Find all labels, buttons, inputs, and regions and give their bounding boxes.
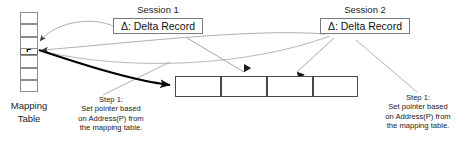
- pointer-arrow-mapping-table-to-page-chain: [39, 50, 170, 85]
- session-1-delta-record-box[interactable]: Δ: Delta Record: [113, 18, 203, 34]
- mapping-table-cell[interactable]: [20, 80, 38, 92]
- page-chain-cell[interactable]: [267, 76, 313, 97]
- session-1-title: Session 1: [108, 4, 208, 15]
- line-session1-to-chain: [187, 38, 244, 72]
- mapping-table-cell[interactable]: [20, 24, 38, 36]
- page-chain-cell[interactable]: [175, 76, 221, 97]
- mapping-table-cell[interactable]: [20, 55, 38, 67]
- page-chain-cell[interactable]: [313, 76, 358, 97]
- step-note-right-line1: Step 1:: [362, 93, 466, 102]
- mapping-table-label-line1: Mapping: [11, 100, 47, 111]
- step-note-right: Step 1: Set pointer based on Address(P) …: [362, 93, 466, 131]
- session-2-delta-record-box[interactable]: Δ: Delta Record: [320, 18, 410, 34]
- mapping-table-cell[interactable]: [20, 12, 38, 24]
- mapping-table-label: Mapping Table: [0, 100, 58, 125]
- step-note-right-line4: the mapping table.: [362, 121, 466, 130]
- step-note-left-line3: on Address(P) from: [55, 114, 167, 123]
- step-note-right-line2: Set pointer based: [362, 102, 466, 111]
- step-note-left-line4: the mapping table.: [55, 123, 167, 132]
- curve-session2-to-mapping-table: [42, 33, 325, 50]
- curve-mapping-table-to-session2: [41, 36, 330, 63]
- session-2-title: Session 2: [315, 4, 415, 15]
- line-session2-to-chain: [297, 38, 334, 72]
- mapping-table-cell[interactable]: [20, 37, 38, 49]
- step-note-left-line2: Set pointer based: [55, 104, 167, 113]
- step-note-right-line3: on Address(P) from: [362, 112, 466, 121]
- delta-record-diagram: P Mapping Table Session 1 Δ: Delta Recor…: [0, 0, 466, 141]
- leader-step-note-2: [356, 40, 417, 92]
- mapping-table-cell[interactable]: [20, 68, 38, 80]
- curve-session1-to-mapping-table: [40, 21, 118, 41]
- step-note-left: Step 1: Set pointer based on Address(P) …: [55, 95, 167, 133]
- page-chain-cell[interactable]: [221, 76, 267, 97]
- mapping-table-label-line2: Table: [18, 113, 41, 124]
- step-note-left-line1: Step 1:: [55, 95, 167, 104]
